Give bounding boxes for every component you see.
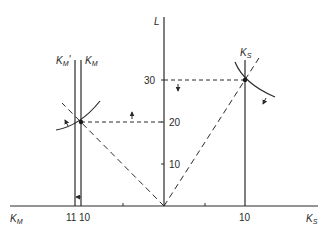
km-label: KM bbox=[85, 55, 98, 67]
tick-label-km: 10 bbox=[79, 212, 91, 223]
arrow-curve-km bbox=[65, 120, 68, 126]
factor-allocation-diagram: 30 20 10 L KM' KM KS KM KS 11 10 10 bbox=[0, 0, 335, 236]
l-axis-label: L bbox=[154, 16, 160, 27]
km-prime-label: KM' bbox=[56, 54, 72, 67]
tick-label-ks: 10 bbox=[239, 212, 251, 223]
tick-label-30: 30 bbox=[144, 75, 156, 86]
ks-equilibrium-point bbox=[243, 78, 247, 82]
tick-label-km-prime: 11 bbox=[66, 212, 77, 223]
km-equilibrium-point bbox=[79, 120, 83, 124]
arrow-curve-ks bbox=[263, 98, 266, 104]
ks-label: KS bbox=[240, 47, 252, 59]
ray-left bbox=[62, 103, 164, 206]
right-axis-label: KS bbox=[306, 213, 318, 225]
km-isoquant-curve bbox=[56, 101, 100, 130]
left-axis-label: KM bbox=[10, 213, 23, 225]
tick-label-10: 10 bbox=[169, 159, 181, 170]
tick-label-20: 20 bbox=[169, 117, 181, 128]
